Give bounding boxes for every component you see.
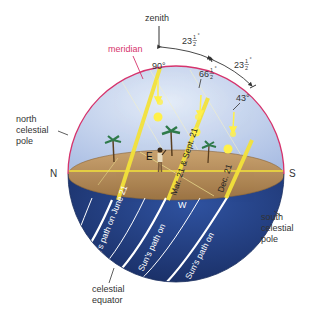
angle-43-label: 43°: [236, 93, 250, 103]
angle-tilt-1-label: 23 1 2 °: [182, 32, 200, 47]
svg-text:2: 2: [210, 74, 213, 80]
east-label: E: [146, 151, 153, 162]
south-label: S: [289, 168, 296, 179]
meridian-label: meridian: [108, 44, 143, 54]
zenith-label: zenith: [145, 13, 169, 23]
svg-text:23: 23: [182, 36, 192, 46]
svg-text:pole: pole: [16, 136, 33, 146]
celestial-sphere: Sun's path on June 21 Sun's path on Mar.…: [60, 60, 300, 294]
svg-text:23: 23: [234, 60, 244, 70]
svg-text:celestial: celestial: [261, 223, 294, 233]
angle-90-label: 90°: [152, 61, 166, 71]
svg-text:1: 1: [210, 67, 213, 73]
svg-text:°: °: [215, 65, 217, 71]
celestial-sphere-diagram: Sun's path on June 21 Sun's path on Mar.…: [0, 0, 310, 309]
svg-text:1: 1: [193, 34, 196, 40]
tilt-arc-1: [161, 47, 211, 59]
south-celestial-pole-label: south celestial pole: [261, 212, 294, 244]
west-label: W: [178, 200, 187, 210]
svg-text:equator: equator: [92, 295, 123, 305]
north-celestial-pole-label: north celestial pole: [16, 114, 49, 146]
sun-icon: [224, 145, 233, 154]
svg-text:°: °: [250, 56, 252, 62]
svg-text:66: 66: [199, 69, 209, 79]
svg-text:2: 2: [245, 65, 248, 71]
angle-tilt-2-label: 23 1 2 °: [234, 56, 252, 71]
svg-text:celestial: celestial: [16, 125, 49, 135]
svg-text:1: 1: [245, 58, 248, 64]
svg-text:pole: pole: [261, 234, 278, 244]
svg-text:2: 2: [193, 41, 196, 47]
svg-text:south: south: [261, 212, 283, 222]
svg-text:celestial: celestial: [92, 284, 125, 294]
sun-icon: [154, 113, 163, 122]
svg-text:°: °: [198, 32, 200, 38]
north-label: N: [50, 168, 57, 179]
celestial-equator-label: celestial equator: [92, 284, 125, 305]
svg-text:north: north: [16, 114, 37, 124]
